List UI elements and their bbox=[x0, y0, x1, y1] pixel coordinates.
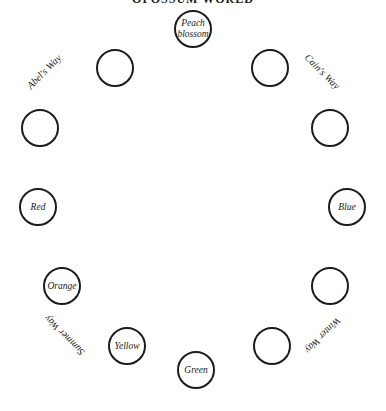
circle-peach-blossom: Peach blossom bbox=[174, 10, 212, 48]
way-label-abel: Abel's Way bbox=[25, 52, 64, 91]
circle-label: Blue bbox=[338, 202, 355, 213]
diagram-title: OPOSSUM WORLD bbox=[0, 0, 386, 7]
circle-empty-lower-right bbox=[311, 267, 349, 305]
circle-empty-upper-right bbox=[311, 109, 349, 147]
circle-empty-top-right bbox=[251, 49, 289, 87]
circle-label: Green bbox=[184, 365, 207, 376]
circle-label: Orange bbox=[47, 281, 76, 292]
label-line-2: blossom bbox=[177, 29, 208, 39]
label-line-1: Peach bbox=[181, 18, 205, 28]
circle-empty-bottom-right bbox=[253, 327, 291, 365]
circle-label: Red bbox=[31, 202, 46, 213]
way-label-cain: Cain's Way bbox=[303, 52, 342, 91]
way-label-winter: Winter Way bbox=[303, 315, 343, 355]
circle-yellow: Yellow bbox=[108, 327, 146, 365]
circle-label: Yellow bbox=[115, 341, 140, 352]
circle-empty-top-left bbox=[96, 49, 134, 87]
circle-blue: Blue bbox=[328, 188, 366, 226]
way-label-summer: Summer Way bbox=[42, 313, 87, 358]
circle-label: Peach blossom bbox=[177, 18, 208, 40]
circle-orange: Orange bbox=[43, 267, 81, 305]
circle-red: Red bbox=[19, 188, 57, 226]
circle-green: Green bbox=[177, 351, 215, 389]
circle-empty-upper-left bbox=[21, 109, 59, 147]
